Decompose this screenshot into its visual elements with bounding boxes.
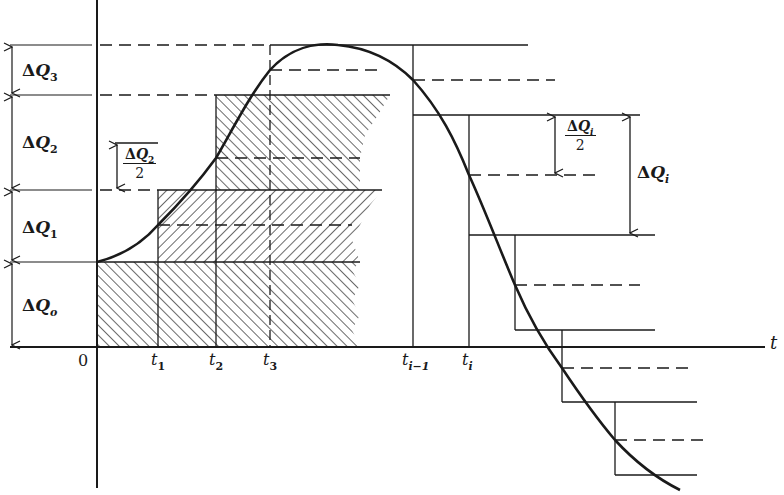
- delta-symbol: Δ: [22, 217, 35, 237]
- axes: [10, 0, 765, 488]
- q-symbol: Q: [578, 118, 590, 134]
- x-axis-label: t: [770, 334, 777, 352]
- q-symbol: Q: [35, 132, 50, 152]
- label-delta-q3: ΔQ3: [22, 62, 58, 79]
- origin-label: 0: [78, 353, 88, 369]
- subscript: 2: [148, 155, 154, 165]
- fraction-denominator: 2: [565, 136, 596, 153]
- subscript: 1: [50, 228, 58, 241]
- tick-subscript: i: [468, 360, 472, 373]
- fraction-numerator: ΔQi: [565, 118, 596, 136]
- subscript: i: [590, 127, 593, 137]
- q-symbol: Q: [35, 217, 50, 237]
- q-symbol: Q: [136, 146, 148, 162]
- label-half-delta-q2: ΔQ2 2: [123, 146, 156, 181]
- label-half-delta-qi: ΔQi 2: [565, 118, 596, 153]
- label-delta-q1: ΔQ1: [22, 219, 58, 236]
- delta-symbol: Δ: [637, 162, 650, 182]
- fraction-denominator: 2: [123, 164, 156, 181]
- hatched-area: [97, 95, 390, 347]
- label-delta-q2: ΔQ2: [22, 134, 58, 151]
- tick-t3: t3: [263, 352, 277, 368]
- subscript: i: [665, 173, 669, 186]
- tick-subscript: i−1: [408, 360, 429, 373]
- q-symbol: Q: [35, 295, 50, 315]
- tick-ti: ti: [462, 352, 473, 368]
- delta-symbol: Δ: [125, 146, 136, 162]
- delta-symbol: Δ: [22, 60, 35, 80]
- subscript: 3: [50, 71, 58, 84]
- delta-symbol: Δ: [22, 295, 35, 315]
- diagram-canvas: ΔQ3 ΔQ2 ΔQ1 ΔQo ΔQ2 2 ΔQi 2 ΔQi 0 t t1 t…: [0, 0, 784, 495]
- tick-subscript: 2: [215, 360, 223, 373]
- q-symbol: Q: [650, 162, 665, 182]
- fraction-numerator: ΔQ2: [123, 146, 156, 164]
- tick-t1: t1: [151, 352, 165, 368]
- subscript: 2: [50, 143, 58, 156]
- diagram-graphics: [0, 0, 784, 495]
- tick-subscript: 1: [157, 360, 165, 373]
- tick-t2: t2: [209, 352, 223, 368]
- subscript: o: [50, 306, 57, 319]
- tick-subscript: 3: [269, 360, 277, 373]
- delta-symbol: Δ: [567, 118, 578, 134]
- label-delta-qo: ΔQo: [22, 297, 57, 314]
- tick-ti-minus-1: ti−1: [402, 352, 430, 368]
- delta-symbol: Δ: [22, 132, 35, 152]
- label-delta-qi: ΔQi: [637, 164, 669, 181]
- q-symbol: Q: [35, 60, 50, 80]
